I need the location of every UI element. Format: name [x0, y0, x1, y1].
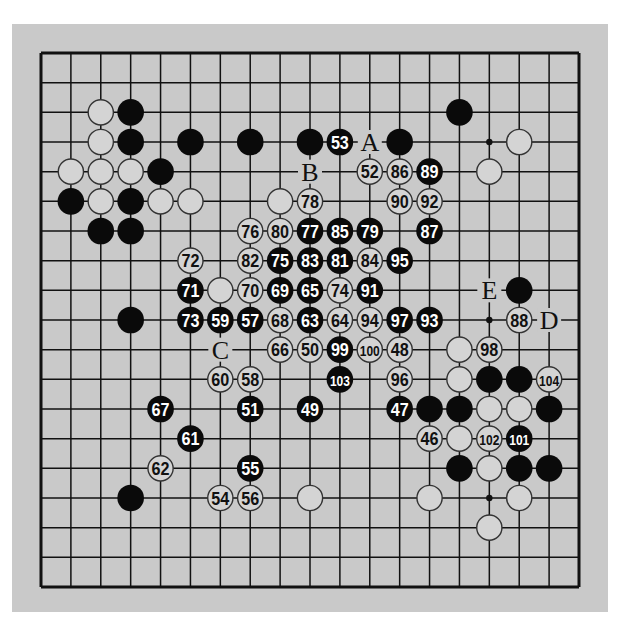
numbered-white-stone: 60: [208, 367, 233, 392]
black-stone: [536, 396, 563, 423]
move-number: 55: [241, 459, 259, 479]
white-stone-icon: [297, 485, 322, 510]
move-number: 50: [301, 340, 319, 360]
black-stone: [147, 158, 174, 185]
white-stone-icon: [148, 189, 173, 214]
numbered-white-stone: 56: [238, 485, 263, 510]
black-stone: [506, 277, 533, 304]
white-stone-icon: [447, 337, 472, 362]
move-number: 72: [181, 251, 199, 271]
black-stone-icon: [117, 218, 144, 245]
numbered-white-stone: 46: [417, 426, 442, 451]
black-stone: [446, 396, 473, 423]
white-stone: [58, 159, 83, 184]
white-stone-icon: [477, 396, 502, 421]
position-labels: ABCDE: [208, 128, 561, 365]
white-stone: [507, 129, 532, 154]
white-stone: [88, 189, 113, 214]
numbered-white-stone: 74: [327, 278, 352, 303]
black-stone: [297, 129, 324, 156]
numbered-white-stone: 64: [327, 307, 352, 332]
black-stone-icon: [117, 99, 144, 126]
numbered-white-stone: 78: [297, 189, 322, 214]
numbered-black-stone: 47: [386, 396, 413, 423]
white-stone: [507, 396, 532, 421]
numbered-black-stone: 77: [297, 218, 324, 245]
move-number: 66: [271, 340, 289, 360]
black-stone-icon: [177, 129, 204, 156]
numbered-white-stone: 94: [357, 307, 382, 332]
star-point: [486, 317, 492, 323]
move-number: 49: [301, 400, 319, 420]
move-number: 89: [421, 162, 439, 182]
black-stone: [416, 396, 443, 423]
white-stone-icon: [447, 367, 472, 392]
white-stone-icon: [118, 159, 143, 184]
black-stone: [446, 455, 473, 482]
move-number: 85: [331, 222, 349, 242]
move-number: 78: [301, 192, 319, 212]
move-number: 100: [360, 343, 380, 359]
numbered-white-stone: 66: [268, 337, 293, 362]
black-stone-icon: [506, 455, 533, 482]
white-stone-icon: [88, 159, 113, 184]
white-stone-icon: [507, 396, 532, 421]
move-number: 87: [421, 222, 439, 242]
white-stone: [208, 278, 233, 303]
white-stone: [88, 100, 113, 125]
black-stone-icon: [117, 485, 144, 512]
move-number: 102: [479, 432, 499, 448]
move-number: 79: [361, 222, 379, 242]
white-stone-icon: [58, 159, 83, 184]
white-stone-icon: [477, 456, 502, 481]
position-label-d: D: [540, 306, 559, 335]
move-number: 53: [331, 133, 349, 153]
black-stone-icon: [386, 129, 413, 156]
move-number: 57: [241, 311, 259, 331]
move-number: 103: [330, 373, 350, 389]
black-stone-icon: [117, 188, 144, 215]
move-number: 68: [271, 311, 289, 331]
black-stone-icon: [506, 277, 533, 304]
white-stone-icon: [88, 100, 113, 125]
white-stone-icon: [178, 189, 203, 214]
move-number: 60: [211, 370, 229, 390]
numbered-white-stone: 92: [417, 189, 442, 214]
black-stone-icon: [117, 129, 144, 156]
black-stone: [446, 99, 473, 126]
move-number: 88: [510, 311, 528, 331]
numbered-black-stone: 59: [207, 307, 234, 334]
position-label-c: C: [212, 336, 229, 365]
numbered-black-stone: 89: [416, 158, 443, 185]
move-number: 97: [391, 311, 409, 331]
black-stone-icon: [446, 455, 473, 482]
black-stone: [117, 188, 144, 215]
numbered-black-stone: 97: [386, 307, 413, 334]
move-number: 84: [361, 251, 379, 271]
move-number: 61: [181, 429, 199, 449]
black-stone: [117, 218, 144, 245]
black-stone: [117, 99, 144, 126]
white-stone: [297, 485, 322, 510]
numbered-black-stone: 79: [356, 218, 383, 245]
move-number: 67: [152, 400, 170, 420]
move-number: 90: [391, 192, 409, 212]
white-stone: [447, 426, 472, 451]
white-stone: [268, 189, 293, 214]
move-number: 99: [331, 340, 349, 360]
move-number: 73: [181, 311, 199, 331]
numbered-white-stone: 88: [507, 307, 532, 332]
white-stone-icon: [477, 159, 502, 184]
black-stone-icon: [147, 158, 174, 185]
numbered-black-stone: 103: [327, 366, 354, 393]
black-stone-icon: [536, 396, 563, 423]
move-number: 86: [391, 162, 409, 182]
move-number: 51: [241, 400, 259, 420]
move-number: 71: [181, 281, 199, 301]
white-stone: [148, 189, 173, 214]
white-stone: [477, 396, 502, 421]
move-number: 93: [421, 311, 439, 331]
black-stone: [117, 485, 144, 512]
white-stone-icon: [477, 515, 502, 540]
black-stone: [237, 129, 264, 156]
